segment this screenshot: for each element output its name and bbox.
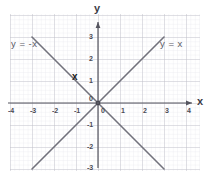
ytick-minus-2: -2: [87, 143, 93, 150]
xtick-2: 2: [143, 107, 147, 114]
point-annotation-x: x: [72, 72, 78, 82]
line-label-y-equals-negative-x: y = -x: [11, 39, 38, 49]
ytick-minus-3: -3: [87, 164, 93, 171]
line-label-y-equals-x: y = x: [160, 39, 183, 49]
ytick-minus-1: -1: [87, 121, 93, 128]
xtick-minus-4: -4: [8, 107, 14, 114]
xtick-3: 3: [165, 107, 169, 114]
xtick-4: 4: [187, 107, 191, 114]
ytick-3: 3: [89, 33, 93, 40]
xtick-minus-1: -1: [74, 107, 80, 114]
xtick-1: 1: [121, 107, 125, 114]
xtick-minus-2: -2: [52, 107, 58, 114]
ytick-1: 1: [89, 77, 93, 84]
ytick-zero: 0: [89, 95, 93, 102]
x-axis-label: x: [197, 96, 203, 107]
ytick-2: 2: [89, 55, 93, 62]
coordinate-graph: x y -4 -3 -2 -1 0 1 2 3 4 3 2 1 0 -1 -2 …: [0, 0, 212, 175]
xtick-minus-3: -3: [30, 107, 36, 114]
xtick-zero: 0: [101, 107, 105, 114]
plot-area: [0, 0, 212, 175]
y-axis-label: y: [94, 3, 100, 14]
